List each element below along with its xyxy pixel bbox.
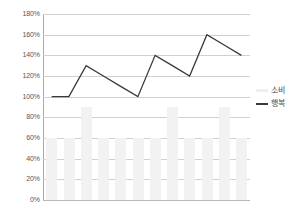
y-axis-tick-label: 100%: [2, 93, 40, 100]
y-axis-tick-label: 140%: [2, 51, 40, 58]
chart-legend: 소비행복: [256, 84, 302, 110]
y-axis-tick-label: 20%: [2, 175, 40, 182]
y-axis-tick-label: 120%: [2, 72, 40, 79]
grid-line: [43, 200, 250, 201]
y-axis-tick-label: 180%: [2, 10, 40, 17]
legend-item[interactable]: 행복: [256, 97, 302, 110]
y-axis-tick-labels: 180%160%140%120%100%80%60%40%20%0%: [0, 14, 40, 200]
chart-container: 180%160%140%120%100%80%60%40%20%0% 소비행복: [0, 0, 302, 214]
y-axis-tick-label: 160%: [2, 31, 40, 38]
y-axis-tick-label: 80%: [2, 113, 40, 120]
y-axis-tick-label: 60%: [2, 134, 40, 141]
legend-bar-swatch-icon: [256, 89, 268, 92]
legend-item-label: 행복: [271, 100, 285, 108]
line-series-행복: [43, 14, 250, 200]
legend-item[interactable]: 소비: [256, 84, 302, 97]
plot-area: [43, 14, 250, 200]
legend-item-label: 소비: [271, 87, 285, 95]
y-axis-tick-label: 0%: [2, 196, 40, 203]
legend-line-swatch-icon: [256, 103, 268, 105]
line-path: [52, 35, 242, 97]
y-axis-tick-label: 40%: [2, 155, 40, 162]
